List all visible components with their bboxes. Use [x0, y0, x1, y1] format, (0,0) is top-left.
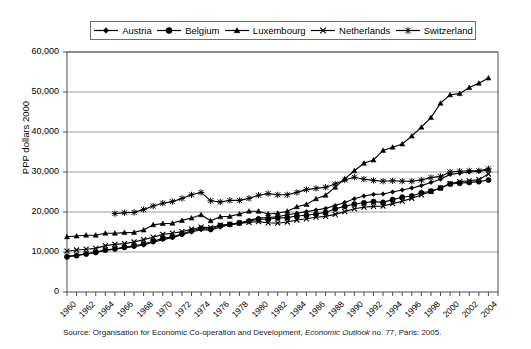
triangle-marker-icon	[224, 25, 250, 36]
y-tick-label: 0	[15, 286, 59, 296]
y-tick-label: 10,000	[15, 246, 59, 256]
source-suffix: no. 77, Paris: 2005.	[370, 328, 442, 337]
legend-item-austria[interactable]: Austria	[91, 25, 154, 36]
legend-label: Belgium	[185, 26, 219, 36]
legend-label: Luxembourg	[253, 26, 306, 36]
source-title-italic: Economic Outlook	[305, 328, 370, 337]
legend-label: Switzerland	[424, 26, 473, 36]
data-series-layer	[64, 76, 491, 260]
legend-item-switzerland[interactable]: Switzerland	[393, 25, 475, 36]
series-switzerland	[112, 166, 492, 217]
source-note: Source: Organisation for Economic Co-ope…	[63, 328, 441, 337]
x-marker-icon	[310, 25, 336, 36]
legend-label: Austria	[122, 26, 152, 36]
circle-marker-icon	[156, 25, 182, 36]
y-tick-label: 50,000	[15, 86, 59, 96]
asterisk-marker-icon	[395, 25, 421, 36]
gridlines	[67, 52, 498, 252]
legend-item-netherlands[interactable]: Netherlands	[308, 25, 392, 36]
y-tick-label: 60,000	[15, 46, 59, 56]
legend-item-belgium[interactable]: Belgium	[154, 25, 221, 36]
chart-legend: AustriaBelgiumLuxembourgNetherlandsSwitz…	[90, 21, 476, 40]
y-tick-label: 20,000	[15, 206, 59, 216]
x-axis-ticks	[67, 292, 498, 296]
series-luxembourg	[65, 76, 491, 239]
series-belgium	[64, 177, 491, 259]
diamond-marker-icon	[93, 25, 119, 36]
source-prefix: Source: Organisation for Economic Co-ope…	[63, 328, 305, 337]
y-tick-label: 30,000	[15, 166, 59, 176]
y-tick-label: 40,000	[15, 126, 59, 136]
chart-figure: PPP dollars 2000 010,00020,00030,00040,0…	[0, 0, 531, 349]
line-chart-plot	[0, 0, 531, 349]
legend-item-luxembourg[interactable]: Luxembourg	[222, 25, 308, 36]
legend-label: Netherlands	[339, 26, 390, 36]
